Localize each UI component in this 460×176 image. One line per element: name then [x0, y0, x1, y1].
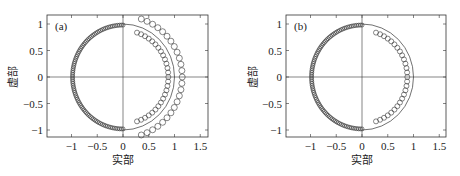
y-tick-label: 1: [38, 18, 44, 30]
y-tick-label: 0: [38, 71, 44, 83]
x-axis-label: 实部: [112, 153, 134, 167]
x-axis-label: 实部: [351, 153, 373, 167]
x-tick-label: 0: [359, 140, 365, 152]
data-point: [156, 104, 161, 109]
data-point: [389, 39, 394, 44]
x-tick-label: −1: [66, 140, 78, 152]
data-point: [164, 33, 170, 39]
y-tick-label: −0.5: [262, 98, 282, 110]
data-point: [160, 29, 166, 35]
y-tick-label: −1: [31, 124, 43, 136]
data-point: [168, 110, 174, 116]
data-point: [392, 107, 397, 112]
y-axis-label: 虚部: [246, 66, 260, 88]
x-tick-label: 0.5: [142, 140, 156, 152]
data-point: [155, 123, 161, 129]
data-point: [139, 117, 144, 122]
y-tick-label: −0.5: [23, 98, 43, 110]
data-point: [156, 45, 161, 50]
data-point: [158, 49, 163, 54]
y-tick-label: 0: [277, 71, 283, 83]
data-point: [143, 34, 148, 39]
plot-frame: [286, 15, 446, 137]
panel-label: (a): [55, 20, 68, 33]
data-point: [160, 119, 166, 125]
data-point: [395, 104, 400, 109]
data-point: [161, 53, 166, 58]
data-point: [397, 100, 402, 105]
x-tick-label: −1: [305, 140, 317, 152]
data-point: [382, 115, 387, 120]
data-point: [150, 127, 156, 133]
x-tick-label: 1.5: [432, 140, 446, 152]
x-tick-label: 1: [172, 140, 178, 152]
data-point: [176, 93, 182, 99]
data-point: [395, 45, 400, 50]
data-point: [385, 36, 390, 41]
x-tick-label: 0: [120, 140, 126, 152]
data-point: [174, 49, 180, 55]
data-point: [146, 36, 151, 41]
data-point: [150, 21, 156, 27]
data-point: [168, 38, 174, 44]
chart-svg-b: −1−0.500.511.510.50−0.5−1(b)实部虚部: [230, 0, 460, 176]
data-point: [389, 110, 394, 115]
data-point: [138, 16, 144, 22]
chart-panel-b: −1−0.500.511.510.50−0.5−1(b)实部虚部: [230, 0, 460, 176]
y-tick-label: −1: [270, 124, 282, 136]
data-point: [179, 80, 185, 86]
data-point: [150, 39, 155, 44]
data-point: [150, 110, 155, 115]
data-point: [174, 99, 180, 105]
x-tick-label: −0.5: [326, 140, 346, 152]
data-point: [178, 87, 184, 93]
data-point: [178, 61, 184, 67]
data-point: [158, 100, 163, 105]
data-point: [153, 107, 158, 112]
panel-label: (b): [294, 20, 307, 33]
data-point: [164, 115, 170, 121]
data-point: [392, 42, 397, 47]
data-point: [143, 115, 148, 120]
data-point: [400, 53, 405, 58]
data-point: [155, 25, 161, 31]
y-tick-label: 1: [277, 18, 283, 30]
x-tick-label: 1.5: [193, 140, 207, 152]
x-tick-label: −0.5: [87, 140, 107, 152]
data-point: [146, 113, 151, 118]
x-tick-label: 1: [411, 140, 417, 152]
y-tick-label: 0.5: [268, 45, 282, 57]
data-point: [153, 42, 158, 47]
y-tick-label: 0.5: [29, 45, 43, 57]
data-point: [144, 18, 150, 24]
chart-panel-a: −1−0.500.511.510.50−0.5−1(a)实部虚部: [0, 0, 230, 176]
data-point: [144, 130, 150, 136]
y-axis-label: 虚部: [6, 66, 20, 88]
data-point: [385, 113, 390, 118]
data-point: [171, 104, 177, 110]
data-point: [378, 117, 383, 122]
data-point: [135, 30, 140, 35]
data-point: [374, 30, 379, 35]
data-point: [179, 68, 185, 74]
chart-svg-a: −1−0.500.511.510.50−0.5−1(a)实部虚部: [0, 0, 230, 176]
x-tick-label: 0.5: [381, 140, 395, 152]
data-point: [176, 55, 182, 61]
data-point: [382, 34, 387, 39]
data-point: [171, 44, 177, 50]
data-point: [397, 49, 402, 54]
